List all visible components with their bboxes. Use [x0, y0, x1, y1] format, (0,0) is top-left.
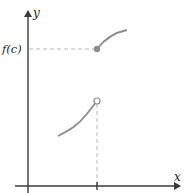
upper-curve: [97, 30, 127, 49]
filled-dot: [94, 46, 100, 52]
y-axis-label: y: [32, 6, 40, 20]
x-axis-label: x: [174, 170, 181, 184]
open-dot: [94, 98, 100, 104]
lower-curve: [58, 102, 96, 136]
c-tick-label: c: [94, 189, 100, 193]
fc-label: f(c): [1, 42, 22, 56]
function-diagram: y x f(c) c: [0, 0, 185, 193]
